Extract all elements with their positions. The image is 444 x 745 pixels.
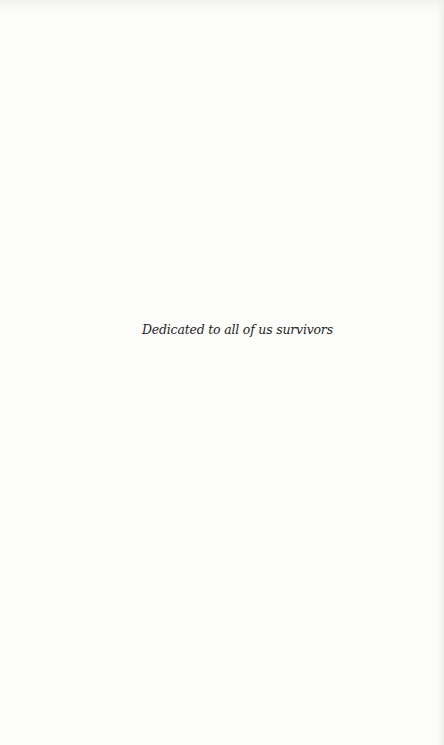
dedication-text: Dedicated to all of us survivors: [142, 322, 333, 337]
book-page: Dedicated to all of us survivors: [0, 0, 444, 745]
page-edge-shadow: [438, 0, 444, 745]
